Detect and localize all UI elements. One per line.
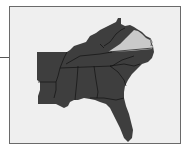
southeast-us-map xyxy=(0,0,185,156)
